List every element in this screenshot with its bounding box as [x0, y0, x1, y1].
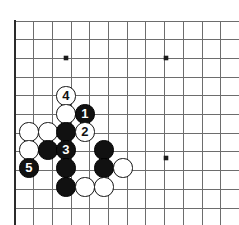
stone-white — [56, 104, 75, 123]
stone-black — [38, 140, 57, 159]
stone-black — [56, 158, 75, 177]
stone-black — [94, 158, 113, 177]
go-board-grid — [0, 0, 239, 225]
stone-white — [75, 177, 94, 196]
stone-move-number: 3 — [62, 143, 69, 156]
stone-move-3: 3 — [56, 140, 75, 159]
stone-move-4: 4 — [56, 86, 75, 105]
stone-white — [19, 122, 38, 141]
stone-move-number: 5 — [25, 161, 32, 174]
star-point — [164, 156, 169, 161]
stone-black — [56, 122, 75, 141]
stone-move-number: 4 — [62, 89, 69, 102]
stone-move-2: 2 — [75, 122, 94, 141]
star-point — [164, 56, 169, 61]
stone-white — [38, 122, 57, 141]
stone-black — [94, 140, 113, 159]
stone-move-number: 2 — [81, 125, 88, 138]
stone-move-5: 5 — [19, 158, 38, 177]
stone-white — [94, 177, 113, 196]
go-diagram: 41235 — [0, 0, 239, 225]
stone-white — [113, 158, 132, 177]
stone-move-number: 1 — [81, 107, 88, 120]
stone-black — [56, 177, 75, 196]
stone-white — [19, 140, 38, 159]
star-point — [64, 56, 69, 61]
stone-move-1: 1 — [75, 104, 94, 123]
